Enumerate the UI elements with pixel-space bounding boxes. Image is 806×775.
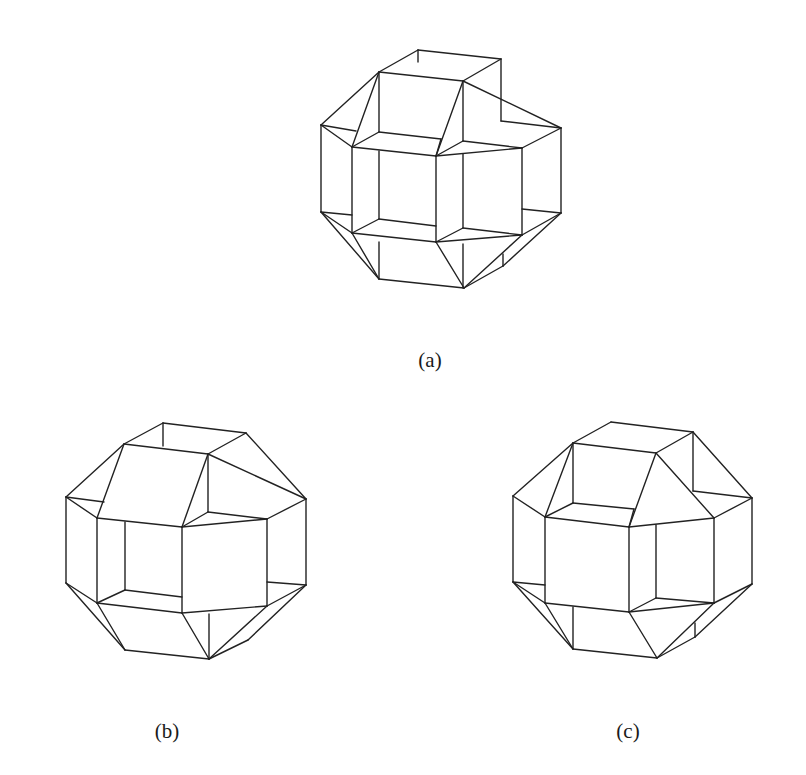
polyhedron-edge bbox=[522, 209, 561, 213]
polyhedron-edge bbox=[97, 444, 124, 518]
polyhedron-edge bbox=[629, 518, 714, 527]
polyhedron-edge bbox=[267, 582, 306, 585]
polyhedron-edge bbox=[418, 50, 501, 59]
polyhedron-edge bbox=[208, 512, 267, 519]
polyhedron-edge bbox=[321, 212, 379, 279]
polyhedron-edge bbox=[611, 422, 693, 432]
polyhedron-edge bbox=[248, 585, 306, 640]
polyhedron-edge bbox=[463, 59, 501, 81]
panel-c-polyhedron bbox=[513, 422, 752, 658]
polyhedron-edge bbox=[209, 606, 267, 659]
polyhedron-edge bbox=[66, 583, 125, 650]
polyhedron-figure bbox=[0, 0, 806, 775]
polyhedron-edge bbox=[208, 433, 246, 454]
polyhedron-edge bbox=[209, 640, 248, 659]
polyhedron-edge bbox=[657, 603, 714, 658]
caption-c: (c) bbox=[616, 719, 639, 744]
polyhedron-edge bbox=[503, 213, 561, 266]
polyhedron-edge bbox=[379, 132, 441, 139]
panel-a-polyhedron bbox=[321, 50, 561, 288]
polyhedron-edge bbox=[463, 228, 522, 235]
polyhedron-edge bbox=[573, 443, 656, 453]
polyhedron-edge bbox=[545, 517, 629, 527]
polyhedron-edge bbox=[124, 444, 208, 454]
polyhedron-edge bbox=[545, 603, 629, 612]
polyhedron-edge bbox=[352, 72, 379, 147]
polyhedron-edge bbox=[545, 603, 573, 649]
polyhedron-edge bbox=[267, 499, 306, 519]
polyhedron-edge bbox=[379, 72, 463, 81]
polyhedron-edge bbox=[463, 81, 561, 128]
polyhedron-edge bbox=[573, 422, 611, 443]
polyhedron-edge bbox=[97, 603, 125, 650]
polyhedron-edge bbox=[513, 582, 573, 649]
polyhedron-edge bbox=[629, 612, 657, 658]
polyhedron-edge bbox=[436, 81, 463, 156]
polyhedron-edge bbox=[321, 72, 379, 125]
polyhedron-edge bbox=[573, 503, 634, 509]
polyhedron-edge bbox=[656, 453, 714, 518]
polyhedron-edge bbox=[352, 233, 379, 279]
polyhedron-edge bbox=[522, 128, 561, 148]
polyhedron-edge bbox=[545, 443, 573, 517]
polyhedron-edge bbox=[513, 443, 573, 496]
polyhedron-edge bbox=[97, 590, 125, 603]
polyhedron-edge bbox=[352, 147, 436, 156]
polyhedron-edge bbox=[629, 509, 634, 527]
polyhedron-edge bbox=[693, 432, 752, 498]
polyhedron-edge bbox=[573, 649, 657, 658]
polyhedron-edge bbox=[182, 454, 208, 527]
polyhedron-edge bbox=[125, 650, 209, 659]
polyhedron-edge bbox=[464, 235, 522, 288]
polyhedron-edge bbox=[208, 454, 306, 499]
polyhedron-edge bbox=[379, 219, 436, 226]
polyhedron-edge bbox=[656, 598, 714, 603]
polyhedron-edge bbox=[379, 279, 464, 288]
polyhedron-edge bbox=[182, 613, 209, 659]
polyhedron-edge bbox=[714, 584, 752, 603]
polyhedron-edge bbox=[124, 423, 163, 444]
polyhedron-edge bbox=[97, 603, 182, 613]
polyhedron-edge bbox=[125, 590, 182, 597]
polyhedron-edge bbox=[66, 444, 124, 497]
polyhedron-edge bbox=[695, 584, 752, 637]
polyhedron-edge bbox=[379, 50, 418, 72]
caption-b: (b) bbox=[155, 719, 180, 744]
polyhedron-edge bbox=[436, 242, 464, 288]
polyhedron-edge bbox=[352, 233, 436, 242]
polyhedron-edge bbox=[97, 518, 182, 527]
polyhedron-edge bbox=[714, 498, 752, 518]
polyhedron-edge bbox=[246, 433, 306, 499]
polyhedron-edge bbox=[513, 496, 545, 517]
panel-b-polyhedron bbox=[66, 423, 306, 659]
polyhedron-edge bbox=[656, 432, 693, 453]
polyhedron-edge bbox=[693, 491, 752, 498]
polyhedron-edge bbox=[501, 121, 561, 128]
polyhedron-edge bbox=[163, 423, 246, 433]
polyhedron-edge bbox=[182, 606, 267, 613]
polyhedron-edge bbox=[352, 219, 379, 233]
polyhedron-edge bbox=[629, 453, 656, 527]
polyhedron-edge bbox=[463, 141, 522, 148]
caption-a: (a) bbox=[418, 348, 441, 373]
polyhedron-edge bbox=[629, 603, 714, 612]
